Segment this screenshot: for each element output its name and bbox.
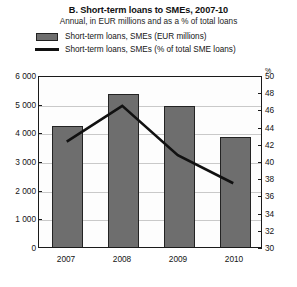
line-series-path bbox=[67, 106, 234, 183]
x-axis-tick-label: 2009 bbox=[150, 254, 206, 264]
right-axis-tick-mark bbox=[258, 248, 262, 249]
right-axis-tick-label: 32 bbox=[265, 227, 291, 235]
legend-label-line: Short-term loans, SMEs (% of total SME l… bbox=[65, 45, 236, 55]
right-axis-tick-label: 38 bbox=[265, 175, 291, 183]
x-axis-tick-label: 2010 bbox=[206, 254, 262, 264]
left-axis-tick-label: 5 000 bbox=[2, 101, 36, 109]
right-axis-tick-label: 40 bbox=[265, 158, 291, 166]
chart-subtitle: Annual, in EUR millions and as a % of to… bbox=[0, 16, 297, 28]
line-series-layer bbox=[39, 77, 261, 247]
legend-line-swatch-icon bbox=[34, 48, 60, 51]
right-axis-tick-mark bbox=[258, 145, 262, 146]
left-axis-tick-mark bbox=[38, 191, 42, 192]
left-axis-tick-mark bbox=[38, 105, 42, 106]
legend-label-bars: Short-term loans, SMEs (EUR millions) bbox=[65, 32, 207, 42]
left-axis-tick-mark bbox=[38, 162, 42, 163]
chart-legend: Short-term loans, SMEs (EUR millions) Sh… bbox=[0, 31, 297, 55]
left-axis-tick-label: 0 bbox=[2, 244, 36, 252]
right-axis-tick-mark bbox=[258, 110, 262, 111]
left-axis-tick-mark bbox=[38, 219, 42, 220]
right-axis-tick-label: 50 bbox=[265, 72, 291, 80]
plot-wrapper: % 01 0002 0003 0004 0005 0006 000 303234… bbox=[0, 70, 297, 287]
right-axis-tick-mark bbox=[258, 76, 262, 77]
right-axis-tick-mark bbox=[258, 128, 262, 129]
left-axis-tick-mark bbox=[38, 76, 42, 77]
right-axis-tick-label: 34 bbox=[265, 210, 291, 218]
left-axis-tick-mark bbox=[38, 133, 42, 134]
left-axis-labels: 01 0002 0003 0004 0005 0006 000 bbox=[0, 76, 36, 248]
right-axis-labels: 3032343638404244464850 bbox=[265, 76, 295, 248]
right-axis-tick-mark bbox=[258, 196, 262, 197]
right-axis-tick-label: 36 bbox=[265, 192, 291, 200]
right-axis-tick-mark bbox=[258, 214, 262, 215]
plot-area bbox=[38, 76, 262, 248]
left-axis-tick-label: 4 000 bbox=[2, 129, 36, 137]
right-axis-tick-mark bbox=[258, 231, 262, 232]
right-axis-tick-mark bbox=[258, 162, 262, 163]
legend-item-line: Short-term loans, SMEs (% of total SME l… bbox=[34, 44, 297, 55]
legend-item-bars: Short-term loans, SMEs (EUR millions) bbox=[34, 31, 297, 42]
left-axis-tick-label: 2 000 bbox=[2, 187, 36, 195]
right-axis-tick-label: 44 bbox=[265, 124, 291, 132]
right-axis-tick-label: 42 bbox=[265, 141, 291, 149]
right-axis-tick-mark bbox=[258, 93, 262, 94]
right-axis-tick-mark bbox=[258, 179, 262, 180]
left-axis-tick-label: 3 000 bbox=[2, 158, 36, 166]
left-axis-tick-label: 1 000 bbox=[2, 215, 36, 223]
legend-bar-swatch-icon bbox=[34, 33, 60, 41]
x-axis-tick-label: 2008 bbox=[94, 254, 150, 264]
x-axis-tick-label: 2007 bbox=[38, 254, 94, 264]
chart-header: B. Short-term loans to SMEs, 2007-10 Ann… bbox=[0, 0, 297, 28]
chart-title: B. Short-term loans to SMEs, 2007-10 bbox=[0, 4, 297, 16]
right-axis-tick-label: 48 bbox=[265, 89, 291, 97]
right-axis-tick-label: 30 bbox=[265, 244, 291, 252]
left-axis-tick-label: 6 000 bbox=[2, 72, 36, 80]
right-axis-tick-label: 46 bbox=[265, 106, 291, 114]
